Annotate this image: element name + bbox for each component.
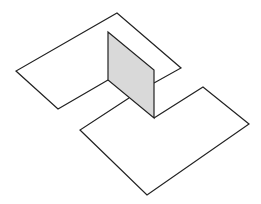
vertical-plane [108,32,154,118]
upper-half-plane-edge [16,13,181,109]
dihedral-diagram [0,0,261,204]
lower-half-plane-edge [80,87,249,195]
